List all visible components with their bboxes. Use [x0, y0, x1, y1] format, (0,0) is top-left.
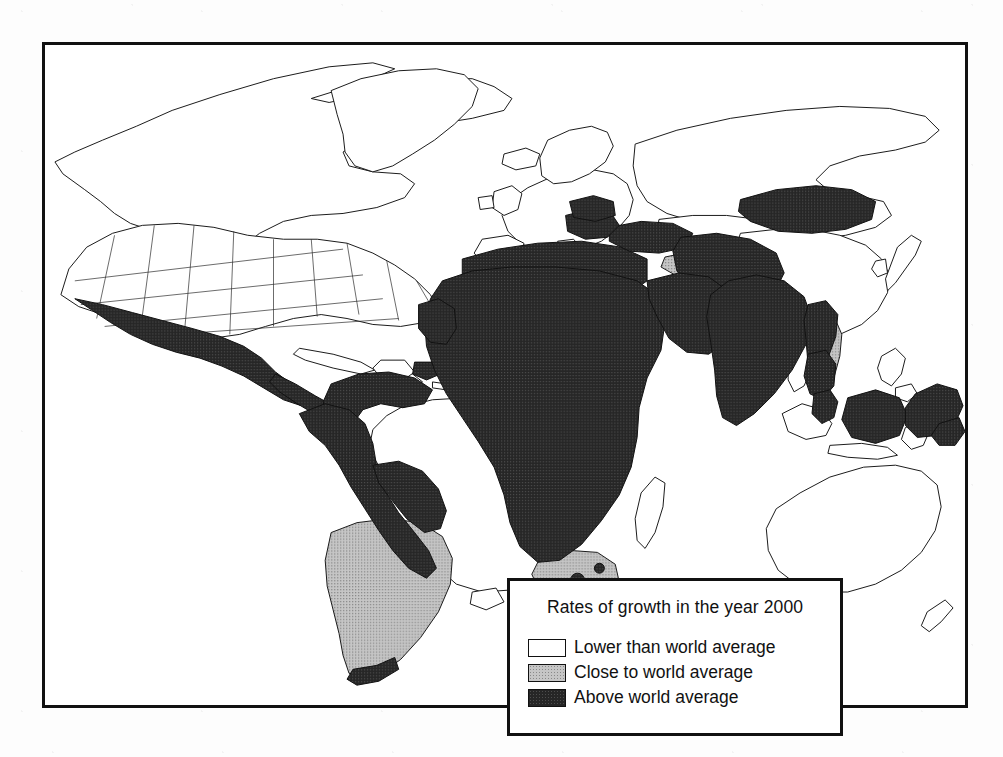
legend-label-lower-than-average: Lower than world average [574, 639, 775, 657]
legend-swatch-gray [528, 664, 566, 682]
legend-item-above-average: Above world average [528, 685, 840, 710]
legend-swatch-white [528, 639, 566, 657]
legend-label-close-to-average: Close to world average [574, 664, 753, 682]
legend-item-lower-than-average: Lower than world average [528, 635, 840, 660]
legend-item-close-to-average: Close to world average [528, 660, 840, 685]
region-java [828, 443, 898, 459]
legend-items: Lower than world average Close to world … [510, 635, 840, 710]
region-borneo [842, 390, 908, 444]
legend-title: Rates of growth in the year 2000 [510, 597, 840, 618]
region-new-zealand [921, 600, 953, 632]
region-madagascar [635, 477, 665, 548]
region-australia [766, 465, 941, 592]
region-iceland [502, 148, 540, 170]
legend-swatch-dark [528, 689, 566, 707]
region-philippines [878, 348, 906, 386]
region-japan [886, 235, 922, 290]
region-greenland [331, 69, 478, 172]
region-uruguay [470, 588, 504, 610]
region-ireland [478, 196, 494, 210]
region-cuba [293, 348, 374, 374]
map-legend: Rates of growth in the year 2000 Lower t… [507, 578, 843, 736]
region-india [707, 275, 812, 426]
legend-label-above-average: Above world average [574, 689, 738, 707]
region-swaziland [594, 563, 604, 573]
